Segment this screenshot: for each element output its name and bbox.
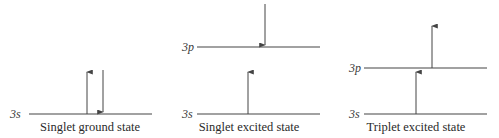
level-label-3s: 3s <box>348 107 360 121</box>
panel-caption: Singlet excited state <box>199 120 300 134</box>
level-label-3s: 3s <box>9 107 21 121</box>
panel-caption: Triplet excited state <box>367 120 466 134</box>
panel-caption: Singlet ground state <box>40 120 140 134</box>
level-label-3p: 3p <box>348 61 361 75</box>
level-label-3s: 3s <box>181 107 193 121</box>
panel-triplet-excited-state: 3p 3s Triplet excited state <box>348 26 487 134</box>
panel-singlet-ground-state: 3s Singlet ground state <box>9 70 152 134</box>
panel-singlet-excited-state: 3p 3s Singlet excited state <box>181 4 320 134</box>
level-label-3p: 3p <box>181 40 194 54</box>
energy-level-diagram: 3s Singlet ground state 3p 3s Singlet ex… <box>0 0 499 138</box>
